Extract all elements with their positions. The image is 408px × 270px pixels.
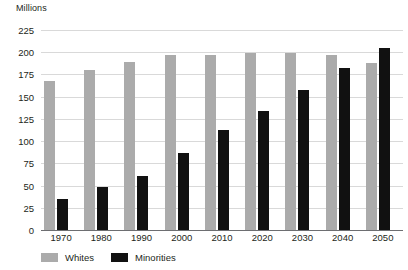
legend-label-whites: Whites — [65, 252, 94, 263]
bar-minorities-2000 — [178, 153, 189, 230]
y-axis-tick-label: 150 — [18, 91, 34, 102]
bar-minorities-2020 — [258, 111, 269, 230]
bar-group — [242, 30, 282, 230]
x-axis-tick-label-2030: 2030 — [282, 232, 322, 243]
bar-whites-2050 — [366, 63, 377, 230]
y-axis-tick-label: 225 — [18, 25, 34, 36]
chart-legend: WhitesMinorities — [41, 252, 176, 263]
x-axis-tick-labels: 197019801990200020102020203020402050 — [41, 232, 403, 248]
y-axis-tick-label: 175 — [18, 69, 34, 80]
x-axis-tick-label-2020: 2020 — [242, 232, 282, 243]
x-axis-tick-label-2040: 2040 — [323, 232, 363, 243]
bar-minorities-1990 — [137, 176, 148, 230]
bar-group — [162, 30, 202, 230]
bar-whites-2020 — [245, 53, 256, 230]
legend-swatch-whites — [41, 253, 58, 262]
legend-swatch-minorities — [111, 253, 128, 262]
y-axis-tick-label: 200 — [18, 47, 34, 58]
bar-group — [81, 30, 121, 230]
bar-group — [282, 30, 322, 230]
bar-group — [363, 30, 403, 230]
y-axis-tick-label: 75 — [23, 158, 34, 169]
bar-whites-1980 — [84, 70, 95, 230]
y-axis-unit-label: Millions — [16, 3, 47, 13]
y-axis-tick-label: 50 — [23, 180, 34, 191]
bar-minorities-2030 — [298, 90, 309, 230]
bar-group — [202, 30, 242, 230]
bar-whites-1970 — [44, 81, 55, 230]
x-axis-tick-label-2000: 2000 — [162, 232, 202, 243]
bar-group — [323, 30, 363, 230]
population-projection-bar-chart: Millions 0255075100125150175200225 19701… — [0, 0, 408, 270]
x-axis-tick-label-1980: 1980 — [81, 232, 121, 243]
y-axis-tick-label: 0 — [29, 225, 34, 236]
bar-minorities-1980 — [97, 187, 108, 230]
bar-minorities-2050 — [379, 48, 390, 230]
legend-label-minorities: Minorities — [135, 252, 176, 263]
plot-area — [41, 30, 403, 230]
bar-whites-2030 — [285, 53, 296, 230]
y-axis-tick-label: 125 — [18, 113, 34, 124]
x-axis-tick-label-2050: 2050 — [363, 232, 403, 243]
y-axis-tick-label: 100 — [18, 136, 34, 147]
bar-whites-2000 — [165, 55, 176, 230]
bar-group — [121, 30, 161, 230]
bar-minorities-2010 — [218, 130, 229, 230]
x-axis-tick-label-2010: 2010 — [202, 232, 242, 243]
legend-item-minorities[interactable]: Minorities — [111, 252, 176, 263]
axis-baseline — [41, 230, 403, 231]
y-axis-tick-label: 25 — [23, 202, 34, 213]
bar-whites-2040 — [326, 55, 337, 230]
x-axis-tick-label-1970: 1970 — [41, 232, 81, 243]
bar-whites-1990 — [124, 62, 135, 230]
y-axis-tick-labels: 0255075100125150175200225 — [0, 30, 34, 230]
bar-group — [41, 30, 81, 230]
bar-minorities-1970 — [57, 199, 68, 230]
bar-whites-2010 — [205, 55, 216, 230]
legend-item-whites[interactable]: Whites — [41, 252, 94, 263]
bar-minorities-2040 — [339, 68, 350, 230]
x-axis-tick-label-1990: 1990 — [121, 232, 161, 243]
